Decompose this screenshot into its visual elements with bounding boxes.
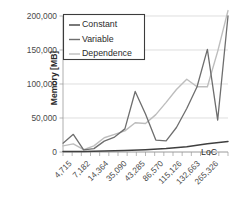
legend-label-constant: Constant [82,19,118,29]
legend-label-dependence: Dependence [82,48,132,58]
y-tick-label: 50,000 [31,113,57,123]
x-axis-title: LoC [201,147,218,157]
legend-label-variable: Variable [82,34,114,44]
x-tick-label: 4,715 [53,159,74,180]
chart-canvas: 050,000100,000150,000200,000 4,7157,1821… [0,0,234,203]
x-axis-tick-labels: 4,7157,18214,36435,09043,28586,570115,12… [53,159,221,187]
y-tick-label: 200,000 [27,11,58,21]
memory-vs-loc-line-chart: 050,000100,000150,000200,000 4,7157,1821… [0,0,234,203]
y-axis-title: Memory [MB] [49,51,59,106]
chart-legend: ConstantVariableDependence [64,15,145,60]
y-tick-label: 0 [52,147,57,157]
